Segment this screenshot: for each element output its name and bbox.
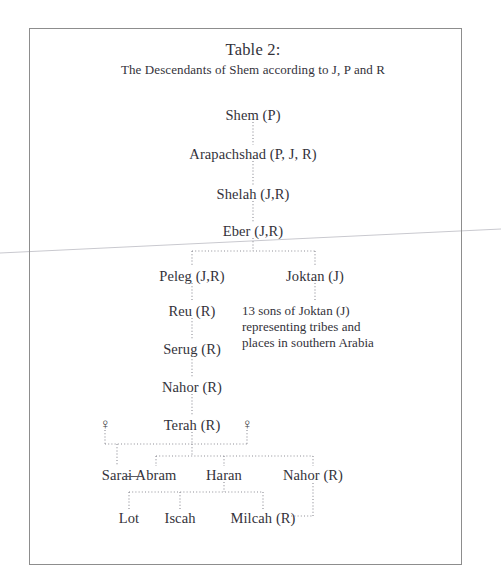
person-shem: Shem (P): [225, 108, 280, 123]
person-milcah: Milcah (R): [230, 511, 295, 526]
page-title: Table 2:: [226, 42, 281, 59]
person-terah: Terah (R): [164, 418, 221, 433]
person-haran: Haran: [206, 468, 242, 483]
person-reu: Reu (R): [168, 304, 215, 319]
person-iscah: Iscah: [164, 511, 195, 526]
sarai-abram-marriage-link: [124, 476, 142, 477]
joktan-note-line-3: places in southern Arabia: [242, 335, 374, 351]
person-shelah: Shelah (J,R): [217, 187, 290, 202]
person-lot: Lot: [119, 511, 139, 526]
joktan-note-line-2: representing tribes and: [242, 319, 374, 335]
genealogy-table-page: Table 2: The Descendants of Shem accordi…: [0, 0, 501, 584]
person-serug: Serug (R): [163, 342, 221, 357]
joktan-descendants-note: 13 sons of Joktan (J) representing tribe…: [242, 303, 374, 351]
person-eber: Eber (J,R): [223, 224, 284, 239]
venus-symbol-icon-right: ♀: [241, 417, 252, 432]
person-nahor-lower: Nahor (R): [283, 468, 343, 483]
page-subtitle: The Descendants of Shem according to J, …: [121, 63, 385, 76]
person-nahor-upper: Nahor (R): [162, 380, 222, 395]
person-arapachshad: Arapachshad (P, J, R): [189, 147, 316, 162]
person-peleg: Peleg (J,R): [159, 269, 225, 284]
person-joktan: Joktan (J): [286, 269, 344, 284]
joktan-note-line-1: 13 sons of Joktan (J): [242, 303, 374, 319]
venus-symbol-icon-left: ♀: [99, 417, 110, 432]
